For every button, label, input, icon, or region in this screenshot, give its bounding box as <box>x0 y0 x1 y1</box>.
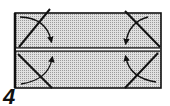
origami-diagram <box>0 0 170 106</box>
step-number: 4 <box>3 86 15 106</box>
center-crease <box>16 48 160 51</box>
